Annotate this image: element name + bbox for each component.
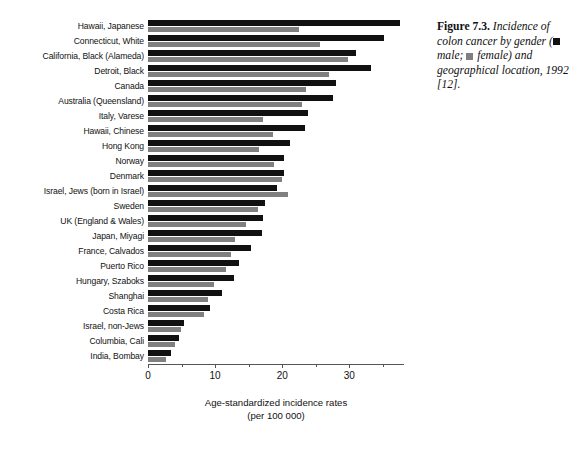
- bar-group: [148, 244, 403, 259]
- caption-figure-number: Figure 7.3.: [437, 20, 490, 33]
- category-label: Sweden: [12, 199, 144, 214]
- bar-group: [148, 259, 403, 274]
- bar-female: [148, 342, 175, 347]
- category-label: Japan, Miyagi: [12, 229, 144, 244]
- category-label: Hong Kong: [12, 139, 144, 154]
- bar-male: [148, 125, 305, 130]
- bar-male: [148, 230, 262, 235]
- bar-male: [148, 35, 384, 40]
- legend-swatch-female-icon: [466, 53, 473, 60]
- x-tick-major: [349, 364, 350, 368]
- x-axis-title: Age-standardized incidence rates (per 10…: [148, 396, 404, 422]
- bar-group: [148, 349, 403, 364]
- bar-female: [148, 177, 282, 182]
- bar-female: [148, 237, 235, 242]
- category-label: Italy, Varese: [12, 109, 144, 124]
- bar-group: [148, 109, 403, 124]
- bar-female: [148, 357, 166, 362]
- bar-female: [148, 147, 259, 152]
- chart-area: Hawaii, JapaneseConnecticut, WhiteCalifo…: [12, 14, 407, 374]
- bar-male: [148, 290, 222, 295]
- x-tick-minor: [182, 364, 183, 367]
- bar-male: [148, 200, 265, 205]
- x-axis-title-line2: (per 100 000): [148, 409, 404, 422]
- bar-group: [148, 199, 403, 214]
- category-label: Detroit, Black: [12, 64, 144, 79]
- x-tick-label: 0: [145, 370, 151, 381]
- bar-female: [148, 282, 214, 287]
- x-axis-title-line1: Age-standardized incidence rates: [205, 397, 347, 408]
- bar-group: [148, 334, 403, 349]
- bar-plot: [148, 19, 403, 364]
- category-label-column: Hawaii, JapaneseConnecticut, WhiteCalifo…: [12, 19, 144, 364]
- category-label: Israel, non-Jews: [12, 319, 144, 334]
- bar-male: [148, 335, 179, 340]
- x-tick-label: 20: [277, 370, 288, 381]
- bar-group: [148, 319, 403, 334]
- bar-group: [148, 64, 403, 79]
- bar-female: [148, 162, 274, 167]
- bar-male: [148, 275, 234, 280]
- bar-female: [148, 42, 320, 47]
- bar-female: [148, 57, 348, 62]
- bar-female: [148, 87, 306, 92]
- bar-male: [148, 305, 210, 310]
- bar-group: [148, 274, 403, 289]
- bar-female: [148, 327, 181, 332]
- bar-group: [148, 154, 403, 169]
- bar-female: [148, 252, 231, 257]
- bar-group: [148, 229, 403, 244]
- bar-group: [148, 49, 403, 64]
- bar-group: [148, 289, 403, 304]
- figure-7-3: Hawaii, JapaneseConnecticut, WhiteCalifo…: [0, 0, 581, 451]
- category-label: Puerto Rico: [12, 259, 144, 274]
- bar-male: [148, 50, 356, 55]
- x-tick-minor: [316, 364, 317, 367]
- bar-female: [148, 117, 263, 122]
- caption-legend-male: male;: [437, 49, 466, 62]
- bar-male: [148, 260, 239, 265]
- bar-female: [148, 192, 288, 197]
- bar-group: [148, 79, 403, 94]
- bar-male: [148, 185, 277, 190]
- bar-group: [148, 19, 403, 34]
- bar-male: [148, 215, 263, 220]
- bar-male: [148, 155, 284, 160]
- category-label: India, Bombay: [12, 349, 144, 364]
- x-axis-line: [148, 364, 404, 365]
- category-label: Hawaii, Japanese: [12, 19, 144, 34]
- x-tick-label: 10: [210, 370, 221, 381]
- x-tick-major: [282, 364, 283, 368]
- bar-group: [148, 34, 403, 49]
- bar-group: [148, 304, 403, 319]
- bar-group: [148, 124, 403, 139]
- bar-male: [148, 170, 284, 175]
- bar-male: [148, 320, 184, 325]
- bar-female: [148, 72, 329, 77]
- bar-female: [148, 222, 246, 227]
- category-label: Shanghai: [12, 289, 144, 304]
- bar-group: [148, 94, 403, 109]
- bar-male: [148, 95, 333, 100]
- category-label: Canada: [12, 79, 144, 94]
- category-label: Israel, Jews (born in Israel): [12, 184, 144, 199]
- category-label: Connecticut, White: [12, 34, 144, 49]
- bar-male: [148, 20, 400, 25]
- bar-female: [148, 297, 208, 302]
- bar-male: [148, 65, 371, 70]
- category-label: Costa Rica: [12, 304, 144, 319]
- bar-male: [148, 245, 251, 250]
- category-label: Hungary, Szaboks: [12, 274, 144, 289]
- category-label: Denmark: [12, 169, 144, 184]
- bar-female: [148, 312, 204, 317]
- figure-caption: Figure 7.3. Incidence of colon cancer by…: [437, 20, 572, 93]
- bar-group: [148, 169, 403, 184]
- bar-group: [148, 139, 403, 154]
- bar-female: [148, 132, 273, 137]
- bar-female: [148, 102, 302, 107]
- bar-male: [148, 80, 336, 85]
- category-label: Hawaii, Chinese: [12, 124, 144, 139]
- bar-male: [148, 350, 171, 355]
- bar-female: [148, 27, 299, 32]
- x-tick-major: [215, 364, 216, 368]
